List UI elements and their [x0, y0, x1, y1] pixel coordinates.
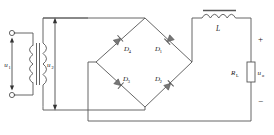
- polarity-plus: +: [258, 34, 263, 44]
- primary-lead-bottom: [15, 83, 33, 95]
- dc-return-rail: [88, 110, 251, 121]
- diode-D4-subscript: 4: [129, 49, 132, 54]
- transformer-secondary-winding: [43, 43, 47, 85]
- diode-D2: [163, 80, 173, 90]
- uo-subscript: o: [262, 73, 264, 78]
- diode-bridge: [96, 18, 192, 107]
- circuit-diagram: u 1 u 2: [0, 0, 274, 135]
- uo-label: u: [258, 69, 262, 77]
- diode-D4: [113, 35, 123, 46]
- inductor-label: L: [215, 24, 220, 33]
- u2-subscript: 2: [51, 65, 53, 70]
- u2-label: u: [47, 61, 51, 69]
- primary-terminal-top: [9, 30, 14, 35]
- secondary-lead-bottom: [43, 107, 88, 111]
- transformer-primary-winding: [30, 45, 34, 83]
- bridge-arm-d4: [96, 18, 145, 62]
- primary-terminal-bottom: [9, 92, 14, 97]
- secondary-lead-top: [43, 18, 88, 43]
- dc-plus-lead: [192, 18, 202, 62]
- diode-D1: [164, 34, 174, 45]
- inductor-coil: [202, 14, 236, 18]
- inductor-output-lead: [236, 18, 251, 62]
- diode-D3-subscript: 3: [128, 79, 130, 84]
- diode-D2-subscript: 2: [160, 79, 162, 84]
- load-resistor-subscript: L: [236, 73, 239, 78]
- load-resistor-body: [247, 62, 255, 82]
- polarity-minus: −: [258, 96, 263, 106]
- u1-label: u: [4, 61, 8, 69]
- transformer: [30, 18, 89, 110]
- u1-subscript: 1: [9, 65, 11, 70]
- diode-D1-subscript: 1: [160, 49, 162, 54]
- schematic-canvas: u 1 u 2: [0, 0, 274, 135]
- primary-lead-top: [15, 33, 33, 45]
